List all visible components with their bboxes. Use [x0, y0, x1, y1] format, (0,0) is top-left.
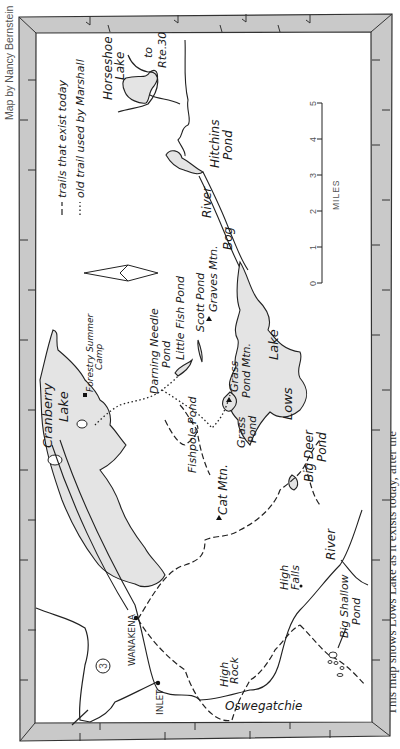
- label-inlet: INLET: [155, 689, 165, 715]
- inlet-marker: [156, 681, 160, 685]
- route-3-shield: 3: [96, 659, 110, 673]
- label-cat-mtn: Cat Mtn.: [216, 464, 230, 515]
- north-arrow-icon: [84, 265, 158, 281]
- label-wanakena: WANAKENA: [127, 613, 137, 666]
- scale-tick-1: 1: [308, 245, 318, 250]
- label-big-shallow-pond-2: Pond: [350, 597, 363, 625]
- scale-tick-4: 4: [308, 137, 318, 142]
- label-river: River: [200, 186, 214, 218]
- label-big-deer-pond: Big Deer: [302, 429, 316, 482]
- label-to-rte30-2: Rte.30: [156, 32, 169, 68]
- label-bog: Bog: [221, 226, 235, 250]
- label-cranberry-lake: Cranberry: [40, 382, 55, 448]
- label-river-2: River: [324, 528, 338, 560]
- svg-text:3: 3: [98, 663, 109, 669]
- scale-tick-3: 3: [308, 173, 318, 178]
- label-high-rock-2: Rock: [228, 657, 241, 684]
- legend-trail-label: trails that exist today: [56, 80, 69, 198]
- scale-tick-5: 5: [308, 101, 318, 106]
- label-high-falls-2: Falls: [289, 565, 302, 590]
- label-hitchins-pond: Hitchins: [208, 120, 222, 168]
- label-little-fish-pond: Little Fish Pond: [174, 275, 187, 360]
- label-darning-needle-2: Pond: [160, 340, 173, 368]
- label-grass-pond-mtn-2: Pond Mtn.: [240, 343, 253, 398]
- label-fishpole-pond: Fishpole Pond: [186, 396, 199, 473]
- label-lows-lake-2: Lake: [266, 329, 281, 360]
- lows-lake-map: Map by Nancy Bernstein This map shows Lo…: [0, 0, 400, 749]
- big-deer-pond: [289, 475, 298, 490]
- label-grass-pond-2: Pond: [246, 415, 259, 443]
- legend-old-trail-label: old trail used by Marshall: [74, 59, 87, 198]
- scale-bar: 0 1 2 3 4 5 MILES: [308, 101, 341, 286]
- label-forestry-camp-2: Camp: [94, 343, 104, 370]
- scale-title: MILES: [331, 179, 341, 210]
- scale-tick-2: 2: [308, 209, 318, 214]
- big-shallow-pond-cluster: [328, 652, 344, 677]
- label-lows-lake: Lows: [280, 387, 295, 420]
- bog-river-upper: [178, 40, 189, 156]
- old-trail: [95, 376, 230, 428]
- label-hitchins-pond-2: Pond: [221, 130, 235, 160]
- label-to-rte30: to: [142, 47, 155, 58]
- trails-today: [138, 405, 365, 721]
- scale-tick-0: 0: [308, 281, 318, 286]
- label-big-deer-pond-2: Pond: [315, 432, 329, 462]
- legend: trails that exist today old trail used b…: [56, 59, 87, 215]
- label-horseshoe-lake-2: Lake: [113, 52, 127, 80]
- label-graves-mtn: Graves Mtn.: [207, 245, 220, 312]
- label-oswegatchie: Oswegatchie: [225, 699, 303, 713]
- map-labels: Horseshoe Lake to Rte.30 Hitchins Pond R…: [40, 32, 363, 715]
- label-scott-pond: Scott Pond: [194, 272, 207, 332]
- forestry-camp-marker: [83, 393, 87, 397]
- map-credit: Map by Nancy Bernstein: [3, 5, 15, 120]
- label-cranberry-lake-2: Lake: [56, 391, 71, 422]
